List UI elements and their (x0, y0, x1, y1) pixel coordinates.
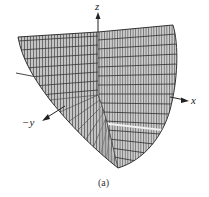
paraboloid-figure: z x −y (a) (0, 0, 209, 197)
z-axis-arrowhead (96, 12, 101, 19)
z-axis-label: z (94, 0, 100, 12)
x-axis-arrowhead (181, 98, 189, 104)
figure-caption: (a) (98, 177, 109, 189)
y-axis-arrowhead (42, 114, 50, 121)
y-axis-label: −y (22, 116, 34, 128)
x-axis-label: x (190, 94, 196, 106)
